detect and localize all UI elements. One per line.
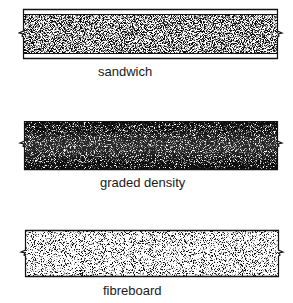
- fibreboard-label: fibreboard: [103, 283, 162, 298]
- fibreboard-cross-section: [19, 228, 285, 282]
- sandwich-panel: [18, 7, 284, 63]
- graded-density-cross-section: [18, 119, 284, 175]
- graded-density-panel: [18, 119, 284, 175]
- sandwich-cross-section: [18, 7, 284, 63]
- fibreboard-panel: [19, 228, 285, 282]
- sandwich-label: sandwich: [98, 64, 152, 79]
- graded-density-label: graded density: [100, 175, 185, 190]
